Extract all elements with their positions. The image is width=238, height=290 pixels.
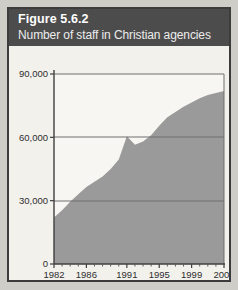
- figure-frame: Figure 5.6.2 Number of staff in Christia…: [7, 7, 231, 282]
- y-tick-label-90000: 90,000: [19, 68, 48, 79]
- figure-number-label: Figure 5.6.2: [18, 12, 229, 27]
- x-tick-label-2003: 2003: [213, 269, 229, 280]
- y-tick-labels: 030,00060,00090,000: [19, 68, 48, 269]
- x-tick-label-1986: 1986: [76, 269, 97, 280]
- figure-subtitle-label: Number of staff in Christian agencies: [18, 27, 229, 43]
- x-tick-label-1991: 1991: [116, 269, 137, 280]
- y-tick-label-30000: 30,000: [19, 195, 48, 206]
- x-tick-label-1982: 1982: [43, 269, 64, 280]
- y-tick-label-0: 0: [43, 258, 48, 269]
- x-tick-label-1995: 1995: [149, 269, 170, 280]
- y-tick-label-60000: 60,000: [19, 132, 48, 143]
- figure-header: Figure 5.6.2 Number of staff in Christia…: [9, 9, 229, 46]
- area-chart: 030,00060,00090,000 19821986199119951999…: [9, 46, 229, 280]
- chart-svg: 030,00060,00090,000 19821986199119951999…: [9, 46, 229, 280]
- x-tick-label-1999: 1999: [181, 269, 202, 280]
- x-tick-labels: 198219861991199519992003: [43, 269, 229, 280]
